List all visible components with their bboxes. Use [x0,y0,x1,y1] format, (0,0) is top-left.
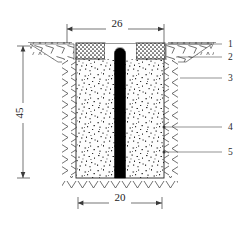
top-width-value: 26 [112,17,124,29]
callout-label-2: 2 [228,52,233,62]
top-width-dimension: 26 [67,17,164,43]
stippled-cap-left [76,43,105,59]
callout-label-1: 1 [228,39,233,49]
stippled-cap-right [136,43,165,59]
pile-foundation-diagram: 26 45 20 1 2 [0,0,246,229]
callout-label-5: 5 [228,147,233,157]
callout-label-4: 4 [228,122,233,132]
native-soil-left [62,60,76,178]
callout-label-3: 3 [228,73,233,83]
native-soil-right [164,60,178,178]
bottom-width-dimension: 20 [78,191,162,209]
diagram-canvas: 26 45 20 1 2 [0,0,246,229]
depth-dimension: 45 [13,46,30,178]
callout-labels: 1 2 3 4 5 [228,39,233,157]
depth-value: 45 [13,107,25,119]
bottom-width-value: 20 [115,191,127,203]
central-pile [115,48,126,179]
